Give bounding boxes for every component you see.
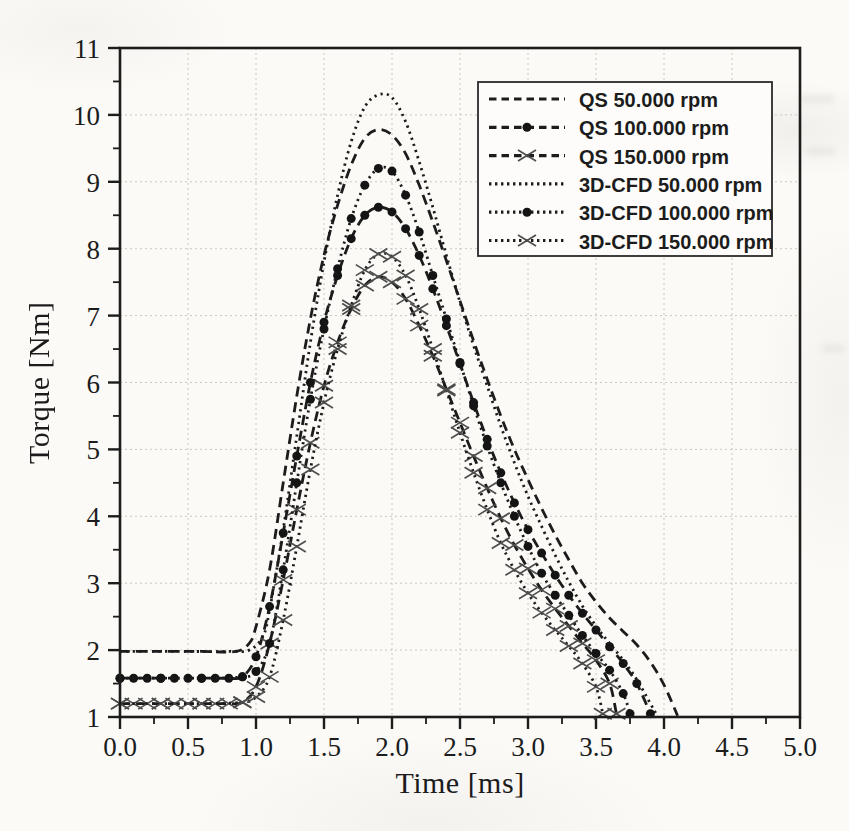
- x-tick-label: 5.0: [783, 732, 817, 762]
- circle-marker: [347, 234, 356, 243]
- legend-label: QS 50.000 rpm: [579, 89, 718, 111]
- circle-marker: [496, 478, 505, 487]
- circle-marker: [469, 401, 478, 410]
- circle-marker: [156, 674, 165, 683]
- y-tick-label: 7: [87, 302, 101, 332]
- x-marker: [397, 270, 415, 281]
- circle-marker: [510, 512, 519, 521]
- y-tick-label: 9: [87, 168, 101, 198]
- legend-label: 3D-CFD 150.000 rpm: [579, 231, 774, 253]
- y-tick-label: 10: [73, 101, 100, 131]
- x-tick-label: 1.5: [307, 732, 341, 762]
- torque-vs-time-chart: 0.00.51.01.52.02.53.03.54.04.55.01234567…: [0, 0, 849, 831]
- circle-marker: [374, 164, 383, 173]
- x-marker: [301, 464, 319, 475]
- circle-marker: [401, 191, 410, 200]
- circle-marker: [428, 271, 437, 280]
- scan-artifact: [800, 95, 834, 103]
- x-marker: [533, 584, 551, 595]
- scan-artifact: [822, 345, 844, 352]
- circle-marker: [224, 674, 233, 683]
- circle-marker: [523, 208, 532, 217]
- circle-marker: [523, 123, 532, 132]
- scanned-figure: 0.00.51.01.52.02.53.03.54.04.55.01234567…: [0, 0, 849, 831]
- y-tick-label: 5: [87, 435, 101, 465]
- x-marker: [478, 483, 496, 494]
- x-marker: [383, 251, 401, 262]
- circle-marker: [578, 631, 587, 640]
- x-marker: [492, 538, 510, 549]
- circle-marker: [551, 591, 560, 600]
- circle-marker: [238, 672, 247, 681]
- dashed-line: [120, 277, 616, 714]
- y-tick-label: 8: [87, 235, 101, 265]
- circle-marker: [442, 314, 451, 323]
- x-marker: [261, 671, 279, 682]
- circle-marker: [252, 667, 261, 676]
- circle-marker: [537, 569, 546, 578]
- circle-marker: [537, 549, 546, 558]
- scan-artifact: [806, 148, 836, 155]
- x-marker: [560, 641, 578, 652]
- circle-marker: [374, 203, 383, 212]
- x-tick-label: 4.0: [647, 732, 681, 762]
- circle-marker: [211, 674, 220, 683]
- legend-label: 3D-CFD 100.000 rpm: [579, 202, 774, 224]
- x-tick-label: 0.5: [171, 732, 205, 762]
- legend-label: 3D-CFD 50.000 rpm: [579, 174, 762, 196]
- circle-marker: [483, 442, 492, 451]
- x-tick-label: 3.5: [579, 732, 613, 762]
- circle-marker: [415, 227, 424, 236]
- circle-marker: [265, 639, 274, 648]
- circle-marker: [592, 626, 601, 635]
- circle-marker: [306, 395, 315, 404]
- y-tick-label: 3: [87, 569, 101, 599]
- x-marker: [356, 265, 374, 276]
- x-marker: [397, 293, 415, 304]
- circle-marker: [252, 652, 261, 661]
- legend: QS 50.000 rpmQS 100.000 rpmQS 150.000 rp…: [478, 82, 774, 256]
- x-tick-label: 2.0: [375, 732, 409, 762]
- x-marker: [505, 564, 523, 575]
- x-marker: [573, 658, 591, 669]
- x-marker: [505, 540, 523, 551]
- y-tick-label: 1: [87, 703, 101, 733]
- circle-marker: [401, 224, 410, 233]
- circle-marker: [320, 324, 329, 333]
- circle-marker: [619, 689, 628, 698]
- circle-marker: [197, 674, 206, 683]
- legend-label: QS 100.000 rpm: [579, 117, 729, 139]
- circle-marker: [551, 571, 560, 580]
- x-tick-label: 3.0: [511, 732, 545, 762]
- circle-marker: [292, 478, 301, 487]
- circle-marker: [496, 468, 505, 477]
- y-axis-title: Torque [Nm]: [22, 48, 58, 717]
- x-axis-title: Time [ms]: [120, 766, 800, 800]
- circle-marker: [360, 211, 369, 220]
- x-marker: [424, 350, 442, 361]
- series-3d-cfd-150-000-rpm: [111, 249, 612, 720]
- circle-marker: [279, 565, 288, 574]
- dashed-line: [120, 207, 650, 714]
- circle-marker: [564, 611, 573, 620]
- x-marker: [410, 320, 428, 331]
- x-marker: [437, 384, 455, 395]
- circle-marker: [415, 251, 424, 260]
- circle-marker: [388, 207, 397, 216]
- x-tick-label: 4.5: [715, 732, 749, 762]
- y-tick-label: 6: [87, 369, 101, 399]
- x-tick-label: 2.5: [443, 732, 477, 762]
- y-tick-label: 11: [74, 34, 100, 64]
- circle-marker: [360, 181, 369, 190]
- circle-marker: [524, 542, 533, 551]
- circle-marker: [564, 591, 573, 600]
- circle-marker: [333, 264, 342, 273]
- y-tick-label: 2: [87, 636, 101, 666]
- x-tick-label: 0.0: [103, 732, 137, 762]
- y-tick-label: 4: [87, 502, 101, 532]
- circle-marker: [619, 659, 628, 668]
- circle-marker: [524, 525, 533, 534]
- circle-marker: [347, 214, 356, 223]
- x-tick-label: 1.0: [239, 732, 273, 762]
- legend-label: QS 150.000 rpm: [579, 146, 729, 168]
